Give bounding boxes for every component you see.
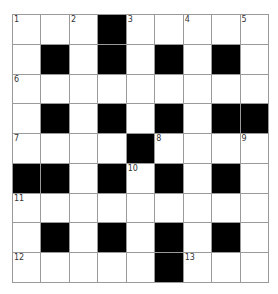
answer-cell[interactable]: 6 [13, 75, 41, 105]
answer-cell[interactable]: 3 [127, 15, 155, 45]
black-cell [155, 253, 183, 283]
answer-cell[interactable] [127, 45, 155, 75]
answer-cell[interactable] [212, 194, 240, 224]
answer-cell[interactable] [184, 75, 212, 105]
black-cell [155, 45, 183, 75]
answer-cell[interactable] [98, 134, 126, 164]
answer-cell[interactable] [70, 164, 98, 194]
black-cell [41, 45, 69, 75]
black-cell [98, 223, 126, 253]
answer-cell[interactable] [241, 223, 269, 253]
answer-cell[interactable] [41, 15, 69, 45]
clue-number: 10 [128, 164, 138, 173]
answer-cell[interactable] [70, 45, 98, 75]
answer-cell[interactable] [98, 75, 126, 105]
answer-cell[interactable]: 11 [13, 194, 41, 224]
black-cell [98, 45, 126, 75]
clue-number: 2 [71, 15, 76, 24]
black-cell [98, 164, 126, 194]
answer-cell[interactable] [70, 253, 98, 283]
answer-cell[interactable] [70, 223, 98, 253]
answer-cell[interactable] [184, 194, 212, 224]
black-cell [212, 45, 240, 75]
answer-cell[interactable] [184, 164, 212, 194]
black-cell [241, 104, 269, 134]
black-cell [155, 164, 183, 194]
answer-cell[interactable]: 10 [127, 164, 155, 194]
black-cell [98, 104, 126, 134]
answer-cell[interactable] [41, 134, 69, 164]
answer-cell[interactable]: 8 [155, 134, 183, 164]
answer-cell[interactable] [184, 104, 212, 134]
clue-number: 11 [14, 194, 24, 203]
answer-cell[interactable]: 9 [241, 134, 269, 164]
black-cell [41, 164, 69, 194]
answer-cell[interactable] [41, 75, 69, 105]
answer-cell[interactable] [241, 164, 269, 194]
answer-cell[interactable]: 13 [184, 253, 212, 283]
answer-cell[interactable] [98, 194, 126, 224]
black-cell [41, 223, 69, 253]
answer-cell[interactable] [127, 75, 155, 105]
clue-number: 8 [156, 134, 161, 143]
black-cell [155, 223, 183, 253]
answer-cell[interactable] [212, 75, 240, 105]
black-cell [212, 164, 240, 194]
black-cell [98, 15, 126, 45]
clue-number: 12 [14, 253, 24, 262]
answer-cell[interactable] [13, 223, 41, 253]
answer-cell[interactable]: 1 [13, 15, 41, 45]
answer-cell[interactable] [241, 253, 269, 283]
answer-cell[interactable] [212, 253, 240, 283]
answer-cell[interactable] [184, 45, 212, 75]
answer-cell[interactable] [70, 194, 98, 224]
black-cell [13, 164, 41, 194]
answer-cell[interactable] [184, 223, 212, 253]
clue-number: 3 [128, 15, 133, 24]
crossword-grid: 12345678910111213 [12, 14, 269, 283]
answer-cell[interactable] [41, 253, 69, 283]
black-cell [127, 134, 155, 164]
answer-cell[interactable] [70, 75, 98, 105]
answer-cell[interactable] [155, 15, 183, 45]
answer-cell[interactable] [13, 45, 41, 75]
clue-number: 6 [14, 75, 19, 84]
answer-cell[interactable] [98, 253, 126, 283]
answer-cell[interactable] [41, 194, 69, 224]
clue-number: 4 [185, 15, 190, 24]
clue-number: 5 [242, 15, 247, 24]
black-cell [41, 104, 69, 134]
black-cell [212, 104, 240, 134]
answer-cell[interactable]: 7 [13, 134, 41, 164]
answer-cell[interactable] [241, 45, 269, 75]
black-cell [155, 104, 183, 134]
answer-cell[interactable] [184, 134, 212, 164]
clue-number: 1 [14, 15, 19, 24]
black-cell [212, 223, 240, 253]
answer-cell[interactable] [241, 75, 269, 105]
clue-number: 13 [185, 253, 195, 262]
answer-cell[interactable]: 12 [13, 253, 41, 283]
answer-cell[interactable] [127, 104, 155, 134]
answer-cell[interactable] [241, 194, 269, 224]
answer-cell[interactable] [212, 15, 240, 45]
answer-cell[interactable] [127, 194, 155, 224]
answer-cell[interactable] [70, 134, 98, 164]
answer-cell[interactable]: 5 [241, 15, 269, 45]
answer-cell[interactable] [155, 75, 183, 105]
clue-number: 9 [242, 134, 247, 143]
answer-cell[interactable] [127, 253, 155, 283]
answer-cell[interactable]: 4 [184, 15, 212, 45]
answer-cell[interactable] [127, 223, 155, 253]
answer-cell[interactable] [70, 104, 98, 134]
answer-cell[interactable] [13, 104, 41, 134]
answer-cell[interactable]: 2 [70, 15, 98, 45]
clue-number: 7 [14, 134, 19, 143]
answer-cell[interactable] [212, 134, 240, 164]
answer-cell[interactable] [155, 194, 183, 224]
